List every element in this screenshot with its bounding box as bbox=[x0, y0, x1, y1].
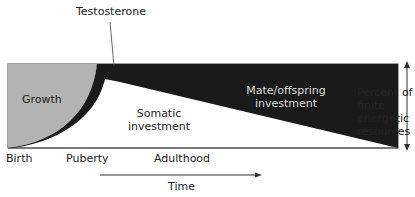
arrow-down-icon bbox=[404, 144, 410, 151]
somatic-label: Somatic investment bbox=[124, 107, 194, 133]
resources-axis-label: Percent of finite energetic resources bbox=[357, 86, 413, 138]
time-label: Time bbox=[168, 180, 195, 193]
arrow-up-icon bbox=[404, 61, 410, 68]
mate-offspring-label: Mate/offspring investment bbox=[236, 84, 336, 110]
time-arrow-icon bbox=[255, 173, 262, 178]
stage-adulthood: Adulthood bbox=[154, 152, 210, 165]
stage-puberty: Puberty bbox=[66, 152, 109, 165]
life-history-diagram bbox=[0, 0, 415, 197]
testosterone-label: Testosterone bbox=[76, 5, 146, 18]
stage-birth: Birth bbox=[6, 152, 32, 165]
testosterone-pointer bbox=[110, 22, 114, 66]
growth-label: Growth bbox=[22, 93, 62, 106]
